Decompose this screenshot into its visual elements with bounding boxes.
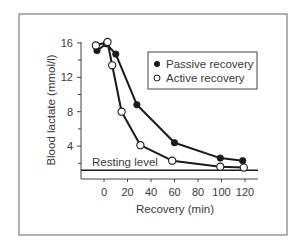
open-circle-marker bbox=[104, 38, 111, 45]
open-circle-marker bbox=[217, 163, 224, 170]
resting-level-label: Resting level bbox=[92, 156, 158, 168]
x-tick-label: 60 bbox=[168, 186, 180, 198]
y-tick-label: 8 bbox=[67, 106, 73, 118]
y-tick-label: 12 bbox=[61, 71, 73, 83]
filled-circle-marker bbox=[134, 102, 140, 108]
filled-circle-marker bbox=[171, 140, 177, 146]
legend-active-label: Active recovery bbox=[166, 72, 245, 84]
x-tick-label: 40 bbox=[145, 186, 157, 198]
open-circle-marker bbox=[109, 62, 116, 69]
x-tick-label: 100 bbox=[212, 186, 230, 198]
active-marker-icon bbox=[154, 75, 160, 81]
lactate-recovery-chart: 481216020406080100120 Passive recovery A… bbox=[0, 0, 302, 249]
open-circle-marker bbox=[240, 164, 247, 171]
open-circle-marker bbox=[169, 157, 176, 164]
figure-frame bbox=[19, 14, 287, 235]
legend-passive-label: Passive recovery bbox=[166, 58, 254, 70]
x-tick-label: 120 bbox=[236, 186, 254, 198]
y-tick-label: 4 bbox=[67, 140, 73, 152]
passive-marker-icon bbox=[154, 61, 160, 67]
filled-circle-marker bbox=[240, 158, 246, 164]
y-axis-title: Blood lactate (mmol/l) bbox=[45, 54, 57, 165]
x-axis-title: Recovery (min) bbox=[136, 203, 214, 215]
y-tick-label: 16 bbox=[61, 37, 73, 49]
x-tick-label: 80 bbox=[192, 186, 204, 198]
filled-circle-marker bbox=[217, 155, 223, 161]
filled-circle-marker bbox=[113, 51, 119, 57]
x-tick-label: 20 bbox=[121, 186, 133, 198]
open-circle-marker bbox=[137, 142, 144, 149]
open-circle-marker bbox=[118, 108, 125, 115]
x-tick-label: 0 bbox=[101, 186, 107, 198]
open-circle-marker bbox=[92, 42, 99, 49]
legend: Passive recovery Active recovery bbox=[148, 52, 257, 89]
